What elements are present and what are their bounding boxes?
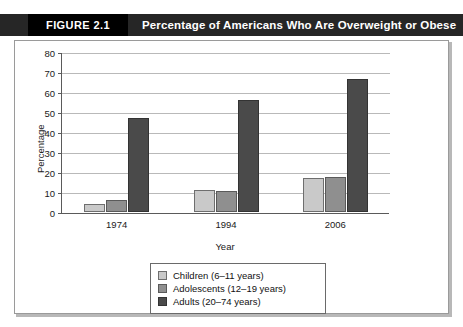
y-tick-mark <box>58 213 62 214</box>
bar <box>347 79 368 212</box>
bar <box>325 177 346 212</box>
figure-panel: Percentage 01020304050607080197419942006… <box>14 40 449 314</box>
x-tick-label: 2006 <box>325 219 346 230</box>
y-tick-label: 50 <box>44 108 55 119</box>
bar-group: 2006 <box>303 52 368 212</box>
bar <box>303 178 324 212</box>
legend-item: Adolescents (12–19 years) <box>158 282 317 295</box>
figure-title: Percentage of Americans Who Are Overweig… <box>142 19 456 31</box>
chart-plot-area: 01020304050607080197419942006 <box>61 53 389 214</box>
y-tick-mark <box>58 133 62 134</box>
x-axis-title: Year <box>215 241 234 252</box>
x-tick-label: 1974 <box>106 219 127 230</box>
figure-header: FIGURE 2.1 Percentage of Americans Who A… <box>0 14 463 36</box>
y-tick-label: 70 <box>44 68 55 79</box>
bar-group: 1974 <box>84 52 149 212</box>
y-tick-label: 80 <box>44 48 55 59</box>
bar <box>238 100 259 212</box>
bar <box>128 118 149 212</box>
y-tick-mark <box>58 173 62 174</box>
legend-item: Adults (20–74 years) <box>158 295 317 308</box>
y-tick-mark <box>58 53 62 54</box>
y-tick-mark <box>58 153 62 154</box>
y-tick-label: 60 <box>44 88 55 99</box>
bar <box>194 190 215 212</box>
bar <box>106 200 127 212</box>
y-tick-mark <box>58 113 62 114</box>
chart-legend: Children (6–11 years)Adolescents (12–19 … <box>150 263 326 314</box>
figure-number-badge: FIGURE 2.1 <box>28 14 128 36</box>
legend-label: Adolescents (12–19 years) <box>173 283 286 294</box>
y-tick-label: 0 <box>50 208 55 219</box>
y-tick-mark <box>58 73 62 74</box>
legend-swatch <box>158 297 167 306</box>
y-tick-label: 10 <box>44 188 55 199</box>
legend-swatch <box>158 271 167 280</box>
legend-swatch <box>158 284 167 293</box>
panel-shadow-right <box>449 42 452 317</box>
bar <box>84 204 105 212</box>
bar <box>216 191 237 212</box>
legend-label: Adults (20–74 years) <box>173 296 261 307</box>
legend-item: Children (6–11 years) <box>158 269 317 282</box>
panel-shadow-bottom <box>16 314 451 317</box>
y-tick-mark <box>58 93 62 94</box>
legend-label: Children (6–11 years) <box>173 270 264 281</box>
x-tick-label: 1994 <box>215 219 236 230</box>
y-tick-label: 40 <box>44 128 55 139</box>
y-tick-label: 30 <box>44 148 55 159</box>
y-tick-label: 20 <box>44 168 55 179</box>
y-tick-mark <box>58 193 62 194</box>
bar-group: 1994 <box>194 52 259 212</box>
